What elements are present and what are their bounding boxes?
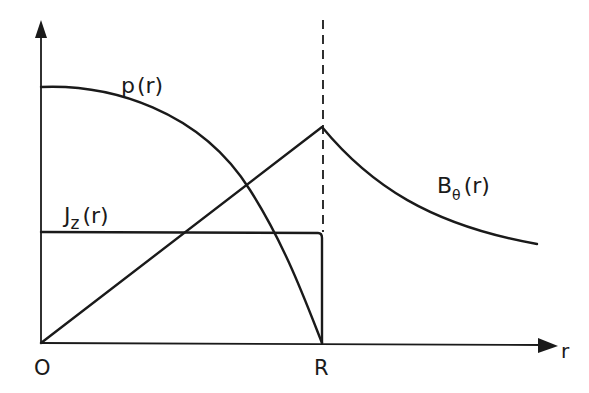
magnetic-field-label: Bθ(r) bbox=[437, 173, 490, 203]
pressure-label: p(r) bbox=[121, 73, 163, 98]
x-axis-arrow-icon bbox=[538, 338, 558, 353]
magnetic-field-curve bbox=[41, 127, 537, 343]
x-axis-label: r bbox=[561, 339, 570, 363]
current-density-curve bbox=[41, 232, 322, 343]
x-axis: r bbox=[41, 338, 570, 363]
origin-label: O bbox=[34, 356, 51, 380]
current-density-label: Jz(r) bbox=[62, 203, 109, 233]
y-axis-arrow-icon bbox=[35, 20, 47, 38]
y-axis bbox=[35, 20, 47, 343]
pinch-profile-diagram: r O R p(r) Jz(r) Bθ(r) bbox=[0, 0, 589, 393]
boundary-label-R: R bbox=[314, 356, 329, 380]
